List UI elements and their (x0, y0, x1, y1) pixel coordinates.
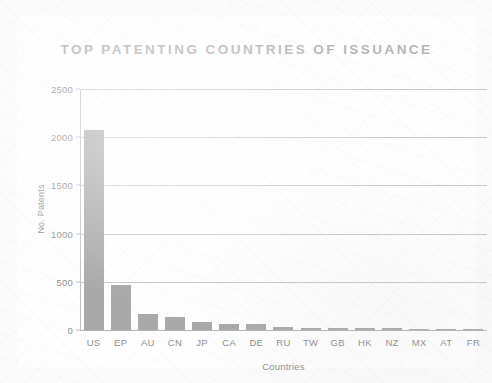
chart-page: TOP PATENTING COUNTRIES OF ISSUANCE 0500… (0, 0, 492, 383)
gridline-0 (80, 330, 487, 331)
x-tick-label-nz: NZ (385, 337, 398, 348)
y-tick-label-1500: 1500 (51, 180, 73, 191)
bar-slot-hk: HK (351, 89, 378, 330)
bar-tw[interactable] (301, 328, 321, 330)
x-tick-label-us: US (87, 337, 101, 348)
bar-hk[interactable] (355, 328, 375, 330)
chart-panel: TOP PATENTING COUNTRIES OF ISSUANCE 0500… (17, 16, 476, 368)
bar-slot-fr: FR (460, 89, 487, 330)
bar-slot-us: US (80, 89, 107, 330)
plot-area: 05001000150020002500 USEPAUCNJPCADERUTWG… (80, 89, 487, 330)
chart-title: TOP PATENTING COUNTRIES OF ISSUANCE (17, 42, 476, 57)
x-tick-label-tw: TW (303, 337, 318, 348)
x-tick-label-ca: CA (222, 337, 236, 348)
bar-slot-at: AT (433, 89, 460, 330)
bar-ru[interactable] (273, 327, 293, 330)
x-tick-label-de: DE (249, 337, 263, 348)
bar-slot-ca: CA (216, 89, 243, 330)
y-tick-label-500: 500 (57, 276, 73, 287)
x-tick-label-fr: FR (467, 337, 480, 348)
y-tick-label-2000: 2000 (51, 132, 73, 143)
x-tick-label-ep: EP (114, 337, 127, 348)
bar-slot-ru: RU (270, 89, 297, 330)
bar-slot-tw: TW (297, 89, 324, 330)
y-axis-title: No. Patents (36, 184, 46, 233)
bar-slot-gb: GB (324, 89, 351, 330)
y-tick-label-2500: 2500 (51, 84, 73, 95)
bar-ep[interactable] (111, 285, 131, 330)
x-tick-label-au: AU (141, 337, 155, 348)
bar-us[interactable] (84, 130, 104, 331)
bar-jp[interactable] (192, 322, 212, 330)
bar-nz[interactable] (382, 328, 402, 330)
bars-group: USEPAUCNJPCADERUTWGBHKNZMXATFR (80, 89, 487, 330)
bar-at[interactable] (436, 329, 456, 330)
bar-slot-au: AU (134, 89, 161, 330)
x-tick-label-cn: CN (168, 337, 182, 348)
x-tick-label-at: AT (440, 337, 452, 348)
bar-ca[interactable] (219, 324, 239, 330)
bar-de[interactable] (246, 324, 266, 330)
bar-slot-cn: CN (161, 89, 188, 330)
x-tick-label-mx: MX (412, 337, 427, 348)
bar-slot-ep: EP (107, 89, 134, 330)
bar-slot-nz: NZ (378, 89, 405, 330)
bar-mx[interactable] (409, 329, 429, 330)
x-tick-label-gb: GB (331, 337, 345, 348)
bar-slot-jp: JP (189, 89, 216, 330)
x-tick-label-ru: RU (276, 337, 290, 348)
bar-slot-mx: MX (406, 89, 433, 330)
bar-slot-de: DE (243, 89, 270, 330)
bar-au[interactable] (138, 314, 158, 330)
bar-cn[interactable] (165, 317, 185, 330)
y-tick-label-0: 0 (68, 325, 73, 336)
x-axis-title: Countries (80, 361, 487, 372)
bar-gb[interactable] (328, 328, 348, 330)
y-tick-label-1000: 1000 (51, 228, 73, 239)
bar-fr[interactable] (463, 329, 483, 330)
x-tick-label-hk: HK (358, 337, 372, 348)
x-tick-label-jp: JP (196, 337, 208, 348)
